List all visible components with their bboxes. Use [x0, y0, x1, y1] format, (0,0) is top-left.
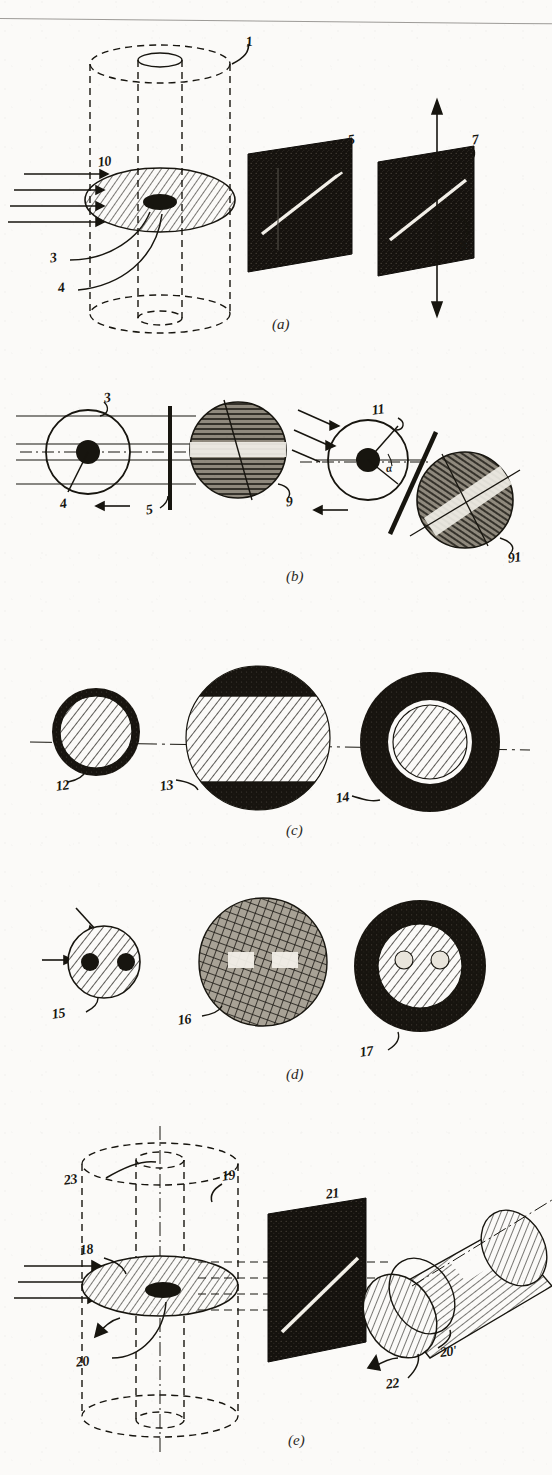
callout-14: 14 [335, 789, 350, 807]
callout-9: 9 [285, 494, 294, 511]
screen-7 [378, 146, 474, 276]
callout-91: 91 [507, 549, 522, 567]
panel-e-label: (e) [288, 1432, 305, 1449]
circle-14 [360, 672, 500, 812]
panel-d: 15 16 17 (d) [0, 888, 552, 1088]
callout-21: 21 [325, 1185, 340, 1203]
callout-3: 3 [49, 250, 58, 267]
callout-13: 13 [159, 777, 174, 795]
callout-5b: 5 [145, 502, 154, 519]
leader-23 [106, 1162, 156, 1178]
disc-18 [82, 1256, 238, 1316]
rotation-arrow-right [314, 506, 348, 514]
panel-b-label: (b) [286, 568, 304, 585]
callout-18: 18 [79, 1241, 94, 1259]
callout-15: 15 [51, 1005, 66, 1023]
panel-b: 3 4 5 9 11 91 α (b) [0, 388, 552, 623]
circle-9 [190, 400, 286, 500]
callout-alpha: α [385, 462, 392, 475]
aperture-4 [143, 194, 177, 210]
callout-7: 7 [471, 132, 480, 149]
callout-3b: 3 [103, 390, 112, 407]
panel-c: 12 13 14 (c) [0, 650, 552, 850]
callout-12: 12 [55, 777, 70, 795]
cut-off-header-text [196, 0, 346, 7]
panel-e-drawing [0, 1110, 552, 1470]
figure-page: 1 10 3 4 5 7 8 (a) [0, 0, 552, 1475]
screen-21 [268, 1198, 366, 1362]
panel-d-drawing [0, 888, 552, 1088]
callout-5: 5 [347, 132, 356, 149]
circle-16 [199, 898, 327, 1026]
spot-15-left [81, 953, 99, 971]
bright-patch-16-right [272, 952, 298, 968]
leader-15 [86, 998, 98, 1012]
callout-20p: 20' [439, 1343, 457, 1361]
leader-14 [352, 796, 380, 801]
panel-a-label: (a) [272, 316, 290, 333]
leader-17 [388, 1032, 399, 1050]
callout-19: 19 [221, 1167, 236, 1185]
panel-c-drawing [0, 650, 552, 850]
circle-91 [410, 452, 520, 548]
rotation-arrow-e [95, 1318, 120, 1337]
callout-10: 10 [97, 153, 112, 171]
hole-17-left [395, 951, 413, 969]
panel-e: 23 19 18 20 21 20' 22 (e) [0, 1110, 552, 1470]
rotation-arrow-drum [368, 1356, 398, 1370]
panel-c-label: (c) [286, 822, 303, 839]
callout-8: 8 [459, 238, 468, 255]
circle-12 [52, 688, 140, 776]
panel-d-label: (d) [286, 1066, 304, 1083]
callout-16: 16 [177, 1011, 192, 1029]
callout-23: 23 [63, 1171, 78, 1189]
circle-13 [182, 666, 334, 810]
spot-15-right [117, 953, 135, 971]
bright-patch-16-left [228, 952, 254, 968]
panel-b-drawing [0, 388, 552, 623]
circle-17 [354, 900, 486, 1032]
callout-4b: 4 [59, 496, 68, 513]
aperture-18 [145, 1282, 181, 1298]
callout-22: 22 [385, 1375, 400, 1393]
rays-right [292, 410, 339, 462]
callout-11: 11 [371, 401, 385, 419]
leader-13 [176, 780, 198, 790]
hole-17-right [431, 951, 449, 969]
screen-5 [248, 138, 352, 272]
callout-17: 17 [359, 1043, 374, 1061]
rotation-arrow-left [96, 502, 130, 510]
leader-5b [160, 496, 168, 508]
callout-4: 4 [57, 280, 66, 297]
circle-15 [68, 926, 140, 998]
leader-11 [396, 418, 403, 430]
leader-19 [211, 1184, 222, 1202]
callout-20: 20 [75, 1353, 90, 1371]
panel-a-drawing [0, 22, 552, 342]
panel-a: 1 10 3 4 5 7 8 (a) [0, 22, 552, 342]
